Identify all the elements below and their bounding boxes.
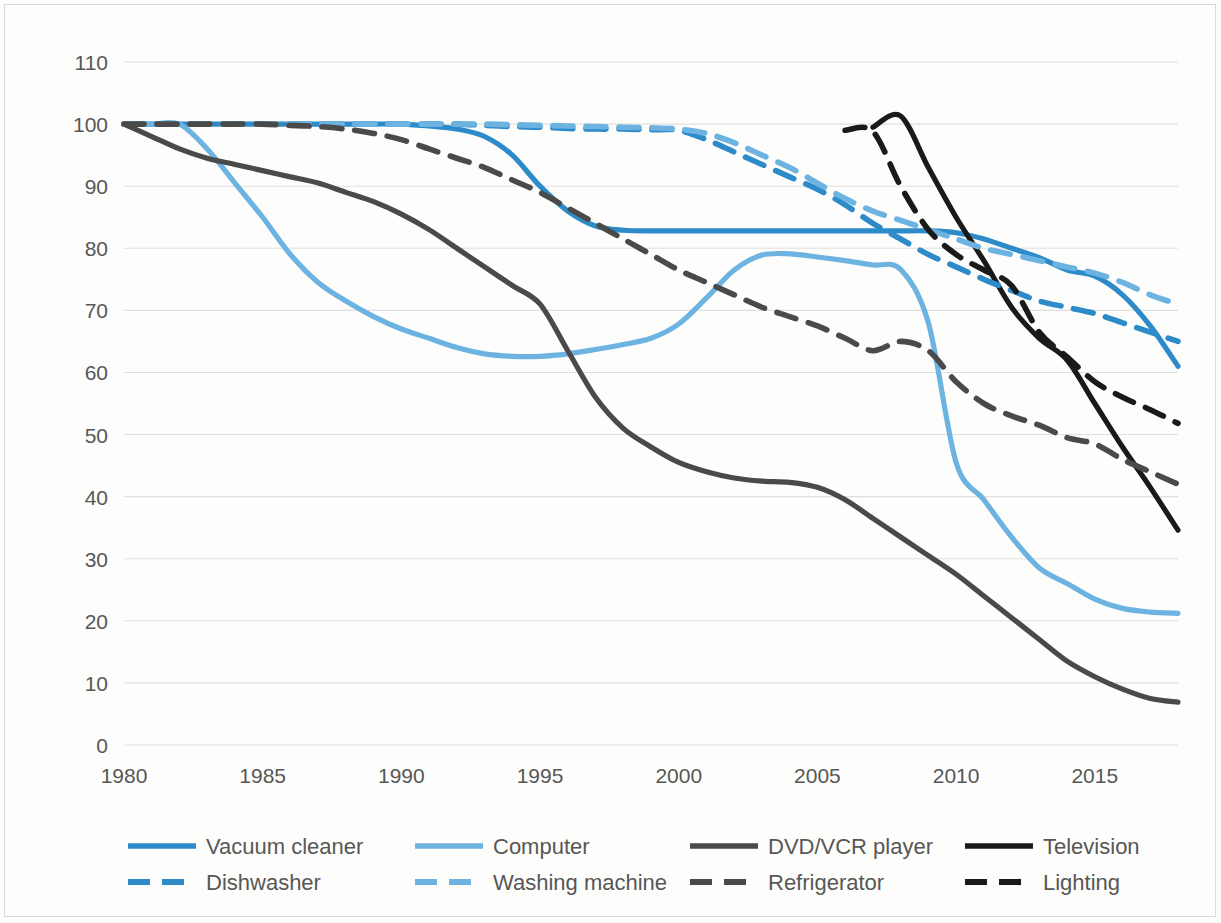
legend-label: Computer	[493, 834, 590, 859]
legend-label: Washing machine	[493, 870, 667, 895]
y-axis-tick-label: 110	[75, 51, 108, 74]
y-axis-tick-label: 50	[85, 424, 108, 447]
legend-label: Dishwasher	[206, 870, 321, 895]
legend-item-refrigerator[interactable]: Refrigerator	[690, 870, 884, 895]
x-axis-tick-label: 2010	[933, 764, 980, 787]
x-axis-tick-labels: 19801985199019952000200520102015	[101, 764, 1119, 787]
chart-svg: 1101009080706050403020100 19801985199019…	[0, 0, 1221, 923]
legend-item-lighting[interactable]: Lighting	[965, 870, 1120, 895]
x-axis-tick-label: 1990	[378, 764, 425, 787]
y-axis-tick-labels: 1101009080706050403020100	[73, 51, 108, 757]
y-axis-tick-label: 100	[73, 113, 108, 136]
legend-label: Refrigerator	[768, 870, 884, 895]
x-axis-tick-label: 1995	[517, 764, 564, 787]
gridlines	[124, 62, 1178, 745]
y-axis-tick-label: 10	[85, 672, 108, 695]
series-line-lighting	[845, 127, 1178, 423]
series-line-refrigerator	[124, 124, 1178, 484]
legend-label: Lighting	[1043, 870, 1120, 895]
y-axis-tick-label: 40	[85, 486, 108, 509]
series-line-dvd-vcr-player	[124, 124, 1178, 702]
y-axis-tick-label: 60	[85, 361, 108, 384]
series-line-washing-machine	[124, 124, 1178, 304]
legend-label: Vacuum cleaner	[206, 834, 363, 859]
legend-item-washing-machine[interactable]: Washing machine	[415, 870, 667, 895]
y-axis-tick-label: 90	[85, 175, 108, 198]
chart-legend: Vacuum cleanerComputerDVD/VCR playerTele…	[128, 834, 1140, 895]
line-chart: 1101009080706050403020100 19801985199019…	[0, 0, 1221, 923]
legend-label: DVD/VCR player	[768, 834, 933, 859]
scanned-page: 1101009080706050403020100 19801985199019…	[0, 0, 1221, 923]
series-line-television	[873, 114, 1178, 530]
legend-label: Television	[1043, 834, 1140, 859]
x-axis-tick-label: 2015	[1071, 764, 1118, 787]
y-axis-tick-label: 80	[85, 237, 108, 260]
x-axis-tick-label: 2000	[655, 764, 702, 787]
x-axis-tick-label: 1980	[101, 764, 148, 787]
legend-item-computer[interactable]: Computer	[415, 834, 590, 859]
y-axis-tick-label: 0	[96, 734, 108, 757]
y-axis-tick-label: 70	[85, 299, 108, 322]
plot-series-group	[124, 114, 1178, 702]
series-line-computer	[124, 122, 1178, 613]
x-axis-tick-label: 2005	[794, 764, 841, 787]
legend-item-dvd-vcr-player[interactable]: DVD/VCR player	[690, 834, 933, 859]
y-axis-tick-label: 30	[85, 548, 108, 571]
legend-item-dishwasher[interactable]: Dishwasher	[128, 870, 321, 895]
legend-item-television[interactable]: Television	[965, 834, 1140, 859]
legend-item-vacuum-cleaner[interactable]: Vacuum cleaner	[128, 834, 363, 859]
y-axis-tick-label: 20	[85, 610, 108, 633]
x-axis-tick-label: 1985	[239, 764, 286, 787]
